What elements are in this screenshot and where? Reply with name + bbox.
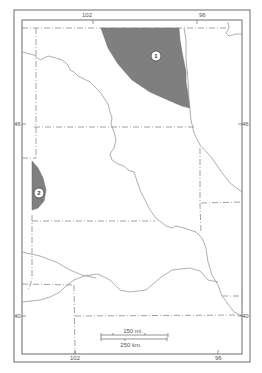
lon-label-bottom-102: 102 [70, 355, 81, 361]
border-west-lower [28, 215, 32, 290]
border-east-horizontal [201, 202, 242, 203]
lat-label-right-40: 40 [242, 313, 249, 319]
lat-label-left-40: 40 [14, 313, 21, 319]
river-southwest [22, 252, 96, 278]
lon-label-bottom-96: 96 [215, 355, 222, 361]
shaded-area-2 [32, 161, 46, 210]
river-south [22, 268, 218, 302]
scale-bar: 150 mi. 250 km. [101, 328, 168, 348]
river-top-right [226, 22, 242, 36]
border-east-vertical [200, 148, 201, 232]
area-marker-1: 1 [151, 51, 161, 61]
border-40 [75, 315, 242, 316]
river-east-main [184, 28, 242, 192]
area-marker-2: 2 [34, 188, 44, 198]
border-sw-vertical [74, 285, 75, 354]
shaded-area-1 [101, 28, 190, 108]
lon-label-top-96: 96 [199, 12, 206, 18]
svg-text:250 km.: 250 km. [120, 342, 142, 348]
map: 1 2 102 96 102 96 46 46 40 40 150 mi. [0, 0, 262, 373]
svg-text:150 mi.: 150 mi. [123, 328, 143, 334]
lat-label-right-46: 46 [242, 121, 249, 127]
lat-label-left-46: 46 [14, 121, 21, 127]
river-central [22, 52, 242, 316]
lon-label-top-102: 102 [82, 12, 93, 18]
